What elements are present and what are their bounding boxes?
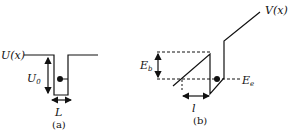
particle-dot [57, 76, 63, 82]
depth-label: U0 [27, 72, 41, 86]
panel-b-field-barrier: V(x) Eb Ee l (b) [139, 4, 288, 126]
energy-label: Ee [241, 74, 254, 88]
width-label-l: L [54, 106, 62, 119]
tunnel-width-label: l [192, 102, 196, 115]
particle-dot-b [214, 76, 220, 82]
potential-label-u: U(x) [1, 49, 25, 62]
potential-label-v: V(x) [265, 4, 288, 17]
panel-a-square-well: U(x) U0 L (a) [1, 49, 98, 130]
diagram-canvas: U(x) U0 L (a) V(x) Eb Ee l (b) [0, 0, 288, 136]
caption-b: (b) [193, 115, 207, 126]
caption-a: (a) [52, 119, 66, 130]
barrier-label: Eb [139, 59, 153, 73]
